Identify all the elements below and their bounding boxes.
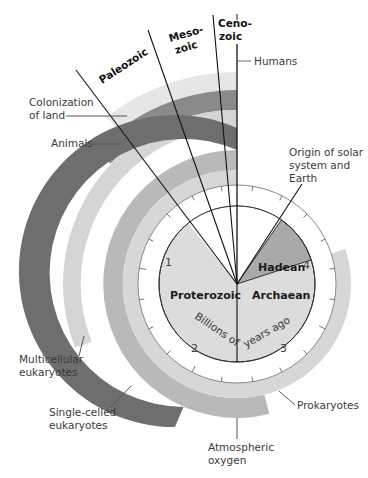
label-origin-line1: Origin of solar <box>289 146 364 158</box>
eon-label-proterozoic: Proterozoic <box>170 289 241 302</box>
label-multicellular-line1: Multicellular <box>19 353 84 365</box>
label-colonization-line1: Colonization <box>29 96 94 108</box>
scale-number-1: 1 <box>165 256 172 269</box>
label-prokaryotes: Prokaryotes <box>297 399 359 411</box>
eon-label-hadean: Hadean <box>258 261 305 274</box>
scale-number-2: 2 <box>191 342 198 355</box>
label-multicellular-line1b: eukaryotes <box>19 366 77 378</box>
label-oxygen-line2: oxygen <box>208 454 246 466</box>
label-oxygen-line1: Atmospheric <box>208 441 274 453</box>
label-single-celled-line1: Single-celled <box>49 406 116 418</box>
era-label-cenozoic-2: zoic <box>219 30 242 42</box>
label-origin-line3: Earth <box>289 172 317 184</box>
eon-label-archaean: Archaean <box>252 289 310 302</box>
scale-number-3: 3 <box>280 342 287 355</box>
label-single-celled-line2: eukaryotes <box>49 419 107 431</box>
scale-number-4: 4 <box>303 259 310 272</box>
label-origin-line2: system and <box>289 159 350 171</box>
era-label-cenozoic-1: Ceno- <box>218 17 252 29</box>
era-label-paleozoic: Paleozoic <box>97 45 150 85</box>
label-colonization-line2: of land <box>29 109 65 121</box>
label-humans: Humans <box>254 55 297 67</box>
geologic-time-clock-diagram: Paleozoic Meso- zoic Ceno- zoic Humans C… <box>0 0 368 478</box>
label-animals: Animals <box>51 137 93 149</box>
